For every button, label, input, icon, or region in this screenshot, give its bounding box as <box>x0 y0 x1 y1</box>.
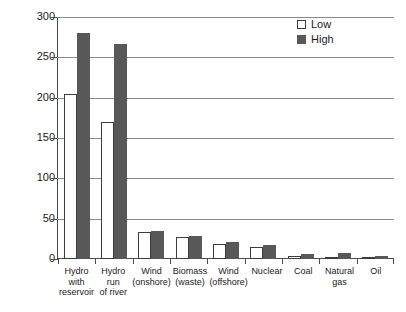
x-axis-label: Hydro runof river <box>95 266 131 298</box>
y-tick-label-150: 150 <box>9 132 55 143</box>
x-tick-mark <box>282 259 283 264</box>
x-axis-label: Nuclear <box>249 266 285 298</box>
x-tick-mark <box>207 259 208 264</box>
bar-group <box>133 17 170 259</box>
x-tick-mark <box>319 259 320 264</box>
x-axis-label: Biomass(waste) <box>172 266 209 298</box>
x-axis-label-line: Hydro run <box>96 266 130 287</box>
bar-low[interactable] <box>250 247 263 259</box>
legend-item-low[interactable]: Low <box>297 19 334 30</box>
bar-low[interactable] <box>101 122 114 259</box>
x-tick-mark <box>357 259 358 264</box>
legend: Low High <box>297 19 334 45</box>
bar-high[interactable] <box>226 242 239 259</box>
x-axis-label-line: Oil <box>359 266 393 277</box>
bar-group <box>170 17 207 259</box>
bar-group <box>245 17 282 259</box>
x-axis-label: Wind(onshore) <box>131 266 172 298</box>
bar-high[interactable] <box>151 231 164 259</box>
x-axis-label-line: (offshore) <box>209 277 247 288</box>
y-tick-label-300: 300 <box>9 11 55 22</box>
bar-group <box>207 17 244 259</box>
bar-low[interactable] <box>138 232 151 259</box>
bar-high[interactable] <box>114 44 127 259</box>
x-tick-mark <box>95 259 96 264</box>
x-axis-label-line: (onshore) <box>132 277 171 288</box>
bar-low[interactable] <box>64 94 77 259</box>
legend-swatch-low-icon <box>297 20 306 29</box>
legend-label-high: High <box>311 34 334 45</box>
y-axis: 300250200150100500 <box>0 0 55 312</box>
bar-low[interactable] <box>213 244 226 259</box>
bar-group <box>282 17 319 259</box>
x-tick-cell <box>357 259 394 265</box>
y-tick-label-0: 0 <box>9 253 55 264</box>
bar-low[interactable] <box>176 237 189 259</box>
x-tick-cell <box>95 259 132 265</box>
x-axis-label-line: of river <box>96 287 130 298</box>
x-axis-label-line: (waste) <box>173 277 208 288</box>
x-axis-label-line: Coal <box>286 266 320 277</box>
x-axis-label-line: Wind <box>132 266 171 277</box>
bar-high[interactable] <box>263 245 276 259</box>
legend-item-high[interactable]: High <box>297 34 334 45</box>
x-axis-label: Oil <box>358 266 394 298</box>
bar-chart: 300250200150100500 Hydro withreservoirHy… <box>0 0 406 312</box>
x-tick-mark <box>58 259 59 264</box>
x-axis-label-line: Natural <box>322 266 356 277</box>
x-axis-label-line: Nuclear <box>250 266 284 277</box>
legend-swatch-high-icon <box>297 35 306 44</box>
x-tick-mark <box>170 259 171 264</box>
x-axis-ticks <box>58 259 394 265</box>
x-tick-cell <box>245 259 282 265</box>
bar-groups <box>58 17 394 259</box>
x-axis-labels: Hydro withreservoirHydro runof riverWind… <box>58 266 394 298</box>
x-axis-label-line: Hydro with <box>59 266 94 287</box>
x-axis-label: Wind(offshore) <box>208 266 248 298</box>
bar-group <box>319 17 356 259</box>
x-axis-label: Naturalgas <box>321 266 357 298</box>
y-tick-label-50: 50 <box>9 213 55 224</box>
x-axis-label-line: Biomass <box>173 266 208 277</box>
y-tick-label-100: 100 <box>9 172 55 183</box>
bar-group <box>95 17 132 259</box>
x-tick-mark <box>133 259 134 264</box>
x-tick-cell <box>207 259 244 265</box>
x-axis-label: Coal <box>285 266 321 298</box>
x-axis-label-line: Wind <box>209 266 247 277</box>
x-axis-label: Hydro withreservoir <box>58 266 95 298</box>
x-tick-cell <box>319 259 356 265</box>
x-tick-mark <box>245 259 246 264</box>
x-tick-cell <box>282 259 319 265</box>
bar-group <box>58 17 95 259</box>
bar-high[interactable] <box>189 236 202 259</box>
x-axis-label-line: gas <box>322 277 356 288</box>
x-tick-cell <box>58 259 95 265</box>
y-tick-label-250: 250 <box>9 51 55 62</box>
legend-label-low: Low <box>311 19 331 30</box>
x-tick-cell <box>133 259 170 265</box>
x-axis-label-line: reservoir <box>59 287 94 298</box>
bar-high[interactable] <box>77 33 90 259</box>
x-tick-mark <box>393 259 394 264</box>
bar-group <box>357 17 394 259</box>
x-tick-cell <box>170 259 207 265</box>
y-tick-label-200: 200 <box>9 92 55 103</box>
